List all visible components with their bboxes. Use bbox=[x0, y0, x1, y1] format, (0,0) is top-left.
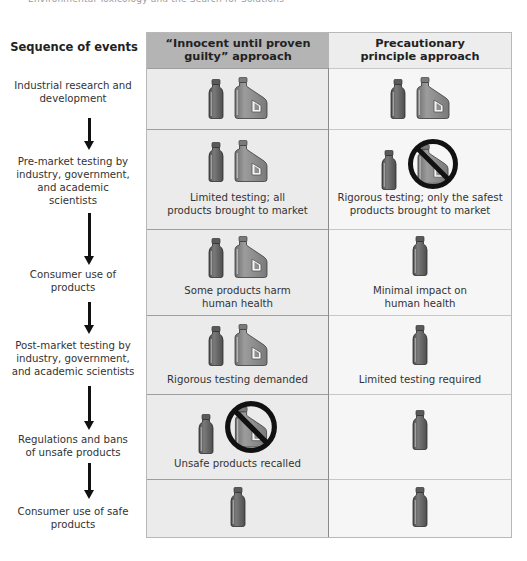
column-header-innocent: “Innocent until proven guilty” approach bbox=[147, 33, 329, 68]
banned-jug-icon bbox=[224, 400, 278, 454]
cell-caption: Unsafe products recalled bbox=[147, 457, 328, 470]
sequence-title: Sequence of events bbox=[4, 40, 144, 54]
cell-precautionary-consumer-use: Minimal impact on human health bbox=[329, 229, 511, 315]
cell-precautionary-pre-market: Rigorous testing; only the safest produc… bbox=[329, 129, 511, 229]
banned-jug-icon bbox=[407, 138, 459, 190]
bottle-icon bbox=[412, 325, 428, 365]
arrow-down-icon bbox=[84, 386, 94, 430]
jug-icon bbox=[234, 324, 268, 366]
bottle-icon bbox=[208, 142, 224, 182]
column-header-precautionary: Precautionary principle approach bbox=[329, 33, 511, 68]
step-post-market-testing: Post-market testing by industry, governm… bbox=[0, 339, 146, 378]
step-consumer-use: Consumer use of products bbox=[0, 268, 146, 294]
cell-caption: Rigorous testing demanded bbox=[147, 373, 328, 386]
cell-caption: Minimal impact on human health bbox=[329, 284, 511, 310]
cell-innocent-pre-market: Limited testing; all products brought to… bbox=[147, 129, 329, 229]
bottle-icon bbox=[208, 238, 224, 278]
cell-innocent-safe-use bbox=[147, 479, 329, 537]
cell-precautionary-post-market: Limited testing required bbox=[329, 315, 511, 394]
jug-icon bbox=[416, 77, 450, 119]
step-consumer-use-safe: Consumer use of safe products bbox=[0, 505, 146, 531]
cell-innocent-post-market: Rigorous testing demanded bbox=[147, 315, 329, 394]
jug-icon bbox=[234, 236, 268, 278]
bottle-icon bbox=[412, 487, 428, 527]
cell-precautionary-safe-use bbox=[329, 479, 511, 537]
sequence-steps: Industrial research and development Pre-… bbox=[0, 67, 146, 537]
bottle-icon bbox=[412, 410, 428, 450]
cell-caption: Rigorous testing; only the safest produc… bbox=[329, 191, 511, 217]
bottle-icon bbox=[390, 79, 406, 119]
arrow-down-icon bbox=[84, 118, 94, 150]
bottle-icon bbox=[230, 487, 246, 527]
cell-caption: Limited testing required bbox=[329, 373, 511, 386]
step-industrial-research: Industrial research and development bbox=[0, 79, 146, 105]
cell-precautionary-regulations bbox=[329, 394, 511, 479]
arrow-down-icon bbox=[84, 213, 94, 265]
step-pre-market-testing: Pre-market testing by industry, governme… bbox=[0, 155, 146, 207]
comparison-grid: “Innocent until proven guilty” approach … bbox=[146, 32, 512, 538]
page-header: Environmental Toxicology and the Search … bbox=[28, 0, 428, 4]
bottle-icon bbox=[412, 236, 428, 276]
cell-caption: Some products harm human health bbox=[147, 284, 328, 310]
bottle-icon bbox=[208, 326, 224, 366]
arrow-down-icon bbox=[84, 302, 94, 334]
bottle-icon bbox=[381, 150, 397, 190]
cell-innocent-regulations: Unsafe products recalled bbox=[147, 394, 329, 479]
jug-icon bbox=[234, 77, 268, 119]
bottle-icon bbox=[208, 79, 224, 119]
jug-icon bbox=[234, 140, 268, 182]
cell-innocent-research bbox=[147, 68, 329, 129]
arrow-down-icon bbox=[84, 463, 94, 499]
cell-caption: Limited testing; all products brought to… bbox=[147, 191, 328, 217]
cell-precautionary-research bbox=[329, 68, 511, 129]
bottle-icon bbox=[198, 414, 214, 454]
cell-innocent-consumer-use: Some products harm human health bbox=[147, 229, 329, 315]
step-regulations-bans: Regulations and bans of unsafe products bbox=[0, 433, 146, 459]
